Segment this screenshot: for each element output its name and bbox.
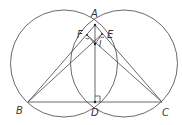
angle-mark-f — [86, 38, 90, 39]
label-e: E — [107, 29, 114, 40]
left-circle — [11, 10, 118, 117]
point-i — [94, 43, 96, 45]
segment-ab — [28, 25, 95, 102]
segment-fi — [87, 35, 95, 44]
point-d — [94, 101, 96, 103]
label-c: C — [162, 107, 169, 118]
geometry-diagram: A F E I B D C — [0, 0, 182, 125]
label-a: A — [90, 8, 98, 19]
point-a — [94, 24, 96, 26]
label-d: D — [91, 107, 99, 118]
point-f — [86, 34, 88, 36]
segment-ac — [95, 25, 162, 102]
label-f: F — [77, 29, 83, 40]
label-b: B — [16, 105, 23, 116]
angle-mark-e — [101, 37, 105, 38]
point-e — [101, 33, 103, 35]
segment-be — [28, 34, 102, 102]
